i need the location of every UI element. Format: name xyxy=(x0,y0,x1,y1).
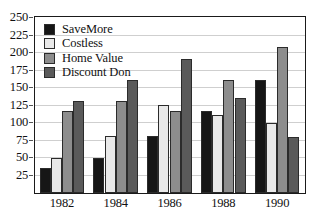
y-axis-tick-mark xyxy=(29,17,33,18)
y-axis-tick-label: 200 xyxy=(0,46,28,58)
legend-swatch-icon xyxy=(44,53,55,64)
bar xyxy=(158,105,169,193)
legend-swatch-icon xyxy=(44,38,55,49)
bar xyxy=(40,168,51,193)
legend-item-label: SaveMore xyxy=(62,23,113,36)
bar xyxy=(266,123,277,193)
bar xyxy=(201,111,212,193)
y-axis-tick-mark xyxy=(29,35,33,36)
x-axis-tick-label: 1988 xyxy=(196,196,250,211)
bar xyxy=(62,111,73,193)
legend-item: Costless xyxy=(44,37,162,52)
bar xyxy=(181,59,192,193)
bar xyxy=(288,137,299,193)
y-axis-tick-label: 125 xyxy=(0,99,28,111)
bar xyxy=(127,80,138,193)
y-axis-tick-label: 225 xyxy=(0,29,28,41)
bar xyxy=(277,47,288,193)
y-axis-tick-label: 150 xyxy=(0,81,28,93)
x-axis-tick-label: 1984 xyxy=(89,196,143,211)
bar xyxy=(212,115,223,193)
bar xyxy=(105,136,116,193)
bar xyxy=(116,101,127,193)
bar xyxy=(223,80,234,193)
y-axis-tick-label: 100 xyxy=(0,116,28,128)
y-axis-tick-mark xyxy=(29,122,33,123)
bar xyxy=(147,136,158,193)
y-axis-tick-label: 75 xyxy=(0,134,28,146)
y-axis-tick-mark xyxy=(29,87,33,88)
y-axis-tick-label: 250 xyxy=(0,11,28,23)
y-axis-tick-mark xyxy=(29,140,33,141)
bar xyxy=(73,101,84,193)
legend-item-label: Costless xyxy=(62,37,103,50)
y-axis-tick-mark xyxy=(29,70,33,71)
bar xyxy=(255,80,266,193)
bar xyxy=(235,98,246,193)
bar-chart: 255075100125150175200225250 SaveMoreCost… xyxy=(0,0,321,223)
bar xyxy=(51,158,62,193)
legend-swatch-icon xyxy=(44,67,55,78)
y-axis-tick-mark xyxy=(29,175,33,176)
legend-item: Discount Don xyxy=(44,66,162,81)
y-axis-tick-label: 175 xyxy=(0,64,28,76)
y-axis-tick-label: 25 xyxy=(0,169,28,181)
y-axis-tick-mark xyxy=(29,105,33,106)
x-axis-tick-label: 1986 xyxy=(143,196,197,211)
bar xyxy=(170,111,181,193)
y-axis-tick-label: 50 xyxy=(0,151,28,163)
y-axis: 255075100125150175200225250 xyxy=(0,0,33,223)
legend-swatch-icon xyxy=(44,24,55,35)
x-axis: 19821984198619881990 xyxy=(34,196,306,221)
legend-item: Home Value xyxy=(44,51,162,66)
x-axis-tick-label: 1990 xyxy=(250,196,304,211)
legend-item-label: Home Value xyxy=(62,52,123,65)
x-axis-tick-label: 1982 xyxy=(35,196,89,211)
y-axis-tick-mark xyxy=(29,157,33,158)
chart-legend: SaveMoreCostlessHome ValueDiscount Don xyxy=(44,22,162,80)
legend-item-label: Discount Don xyxy=(62,66,131,79)
bar xyxy=(93,158,104,193)
y-axis-tick-mark xyxy=(29,52,33,53)
legend-item: SaveMore xyxy=(44,22,162,37)
